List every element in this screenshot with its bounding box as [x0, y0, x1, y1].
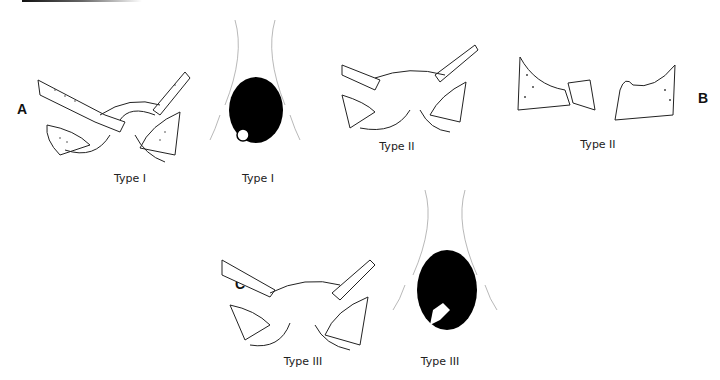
caption-a-right: Type I: [218, 172, 298, 185]
caption-b-right: Type II: [558, 138, 638, 151]
pelvis-type3-illustration: [220, 255, 380, 355]
pelvis-type1-illustration: [35, 70, 195, 170]
caption-c-left: Type III: [263, 355, 343, 368]
panel-label-b: B: [698, 90, 708, 106]
header-rule: [22, 0, 142, 2]
perineum-type1-illustration: [200, 15, 310, 175]
caption-b-left: Type II: [357, 140, 437, 153]
symphysis-type2-illustration: [515, 55, 715, 125]
perineum-type3-illustration: [385, 185, 505, 355]
panel-label-a: A: [17, 101, 27, 117]
caption-c-right: Type III: [400, 355, 480, 368]
caption-a-left: Type I: [90, 172, 170, 185]
pelvis-type2-illustration: [340, 40, 480, 135]
